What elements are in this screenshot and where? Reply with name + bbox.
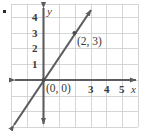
y-tick-label-3: 3 xyxy=(32,28,38,39)
point-label-2-3: (2, 3) xyxy=(77,36,102,48)
plotted-line xyxy=(14,10,91,125)
y-tick-label-1: 1 xyxy=(32,59,38,70)
x-axis-label: x xyxy=(131,84,136,95)
x-tick-label-3: 3 xyxy=(88,84,94,95)
point-marker-2-3 xyxy=(72,31,76,35)
graph-canvas xyxy=(0,0,143,131)
point-marker-origin xyxy=(42,78,46,82)
x-tick-label-5: 5 xyxy=(119,84,125,95)
y-axis-label: y xyxy=(47,6,52,17)
point-label-origin: (0, 0) xyxy=(46,83,71,95)
coordinate-plane-figure: 4 3 2 1 3 4 5 x y (2, 3) (0, 0) xyxy=(0,0,143,131)
y-tick-label-2: 2 xyxy=(32,43,38,54)
x-tick-label-4: 4 xyxy=(104,84,110,95)
y-tick-label-4: 4 xyxy=(32,12,38,23)
grid-lines xyxy=(11,4,138,127)
